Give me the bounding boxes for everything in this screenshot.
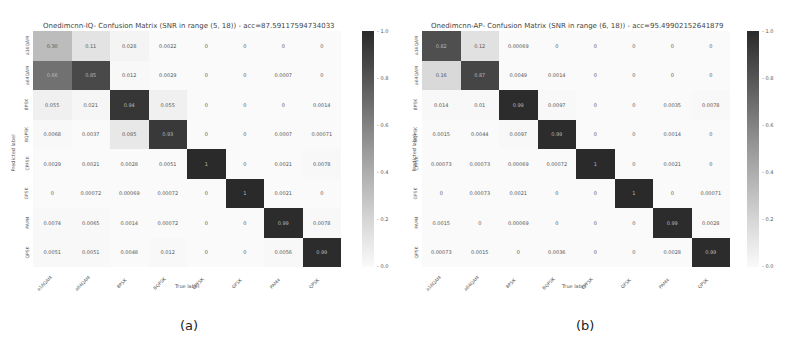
matrix-cell: 0.00072 (538, 149, 577, 179)
matrix-cell: 0.99 (264, 208, 303, 238)
matrix-cell: 0.0021 (264, 179, 303, 209)
matrix-cell: 0.0048 (110, 238, 149, 268)
matrix-cell: 0.00069 (499, 208, 538, 238)
x-tick-label: QPSK (295, 270, 334, 289)
matrix-cell: 0.30 (33, 31, 72, 61)
matrix-cell: 0 (187, 31, 226, 61)
matrix-cell: 0 (422, 179, 461, 209)
matrix-cell: 0 (187, 61, 226, 91)
matrix-cell: 0 (576, 90, 615, 120)
matrix-cell: 0.00073 (422, 238, 461, 268)
confusion-matrix-panel-a: Onedimcnn-IQ- Confusion Matrix (SNR in r… (0, 0, 397, 352)
matrix-cell: 0 (303, 61, 342, 91)
matrix-cell: 0.00073 (461, 149, 500, 179)
matrix-cell: 0 (615, 208, 654, 238)
matrix-cell: 0.012 (110, 61, 149, 91)
matrix-cell: 0 (187, 120, 226, 150)
colorbar-tick-label: - 0.4 (377, 169, 388, 175)
matrix-cell: 0.0074 (33, 208, 72, 238)
matrix-cell: 0 (538, 31, 577, 61)
panel-caption: (b) (576, 318, 594, 333)
matrix-cell: 0.0021 (653, 149, 692, 179)
matrix-cell: 0.00072 (149, 208, 188, 238)
matrix-cell: 0.021 (72, 90, 111, 120)
matrix-cell: 0 (615, 31, 654, 61)
matrix-cell: 0.085 (110, 120, 149, 150)
matrix-cell: 0.0078 (303, 149, 342, 179)
matrix-cell: 0.94 (110, 90, 149, 120)
matrix-cell: 0 (264, 31, 303, 61)
matrix-cell: 0.99 (692, 238, 731, 268)
matrix-cell: 0.00069 (499, 149, 538, 179)
matrix-cell: 0 (615, 90, 654, 120)
matrix-cell: 0.0036 (538, 238, 577, 268)
matrix-cell: 0 (576, 208, 615, 238)
matrix-cell: 0.12 (461, 31, 500, 61)
matrix-cell: 0 (226, 31, 265, 61)
colorbar-tick-label: - 0.2 (762, 216, 773, 222)
matrix-cell: 0 (653, 179, 692, 209)
matrix-cell: 0 (226, 120, 265, 150)
y-tick-label: a64QAM (21, 61, 33, 91)
matrix-cell: 0.0007 (264, 120, 303, 150)
matrix-cell: 0.0051 (72, 238, 111, 268)
matrix-cell: 0 (461, 208, 500, 238)
matrix-cell: 0.0015 (461, 238, 500, 268)
matrix-cell: 0.055 (33, 90, 72, 120)
matrix-cell: 0.82 (422, 31, 461, 61)
matrix-cell: 0 (615, 120, 654, 150)
matrix-cell: 1 (615, 179, 654, 209)
matrix-cell: 0.0037 (72, 120, 111, 150)
y-tick-label: GFSK (410, 179, 422, 209)
matrix-cell: 0 (303, 179, 342, 209)
matrix-cell: 0 (615, 238, 654, 268)
x-tick-label: a64QAM (453, 270, 492, 289)
matrix-cell: 0 (226, 238, 265, 268)
matrix-cell: 0 (187, 90, 226, 120)
matrix-cell: 0 (653, 31, 692, 61)
colorbar-tick-label: - 0.0 (762, 263, 773, 269)
matrix-cell: 0.00071 (692, 179, 731, 209)
matrix-cell: 0.0014 (110, 208, 149, 238)
matrix-cell: 0.0068 (33, 120, 72, 150)
x-axis-title: True label (562, 283, 586, 289)
matrix-cell: 0 (33, 179, 72, 209)
matrix-cell: 1 (187, 149, 226, 179)
matrix-cell: 0 (653, 61, 692, 91)
matrix-cell: 0.99 (499, 90, 538, 120)
panel-caption: (a) (180, 318, 198, 333)
matrix-cell: 0 (576, 120, 615, 150)
matrix-cell: 0.0078 (692, 90, 731, 120)
matrix-cell: 0.0007 (264, 61, 303, 91)
matrix-cell: 0 (692, 149, 731, 179)
matrix-cell: 0.0056 (264, 238, 303, 268)
matrix-cell: 0.00073 (422, 149, 461, 179)
matrix-cell: 0.0014 (303, 90, 342, 120)
y-tick-label: PAM4 (410, 208, 422, 238)
x-tick-label: PAM4 (645, 270, 684, 289)
x-tick-label: a16QAM (25, 270, 64, 289)
x-tick-label: GFSK (218, 270, 257, 289)
matrix-cell: 0 (187, 238, 226, 268)
matrix-cell: 0 (187, 179, 226, 209)
matrix-cell: 0.0028 (692, 208, 731, 238)
colorbar (362, 31, 374, 267)
matrix-cell: 0.0021 (264, 149, 303, 179)
matrix-cell: 0.0049 (499, 61, 538, 91)
matrix-cell: 0.0035 (653, 90, 692, 120)
matrix-cell: 0 (576, 61, 615, 91)
colorbar-tick-label: - 0.4 (762, 169, 773, 175)
matrix-cell: 0.0044 (461, 120, 500, 150)
matrix-cell: 0.055 (149, 90, 188, 120)
matrix-cell: 0.0028 (110, 149, 149, 179)
matrix-cell: 0.0051 (149, 149, 188, 179)
matrix-cell: 0 (187, 208, 226, 238)
matrix-cell: 0.0051 (33, 238, 72, 268)
matrix-cell: 0 (692, 120, 731, 150)
matrix-cell: 0.0022 (149, 31, 188, 61)
matrix-cell: 0.0014 (538, 61, 577, 91)
y-tick-label: CPFSK (21, 149, 33, 179)
x-tick-label: a16QAM (414, 270, 453, 289)
matrix-cell: 0.0065 (72, 208, 111, 238)
colorbar-tick-label: - 1.0 (377, 28, 388, 34)
